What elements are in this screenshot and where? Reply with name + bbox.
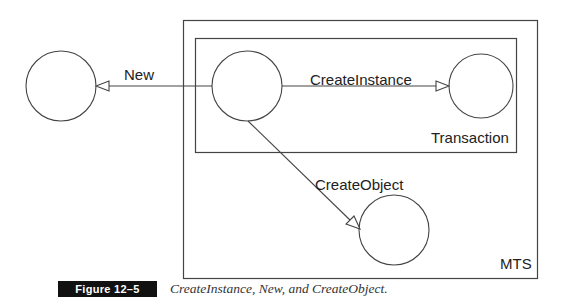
edge-label-createinstance: CreateInstance: [310, 71, 412, 88]
container-label-transaction: Transaction: [431, 129, 509, 146]
figure-caption: CreateInstance, New, and CreateObject.: [170, 280, 388, 297]
client-node: [26, 51, 96, 121]
figure-number: Figure 12–5: [58, 281, 157, 297]
instance-node: [449, 54, 513, 118]
edge-label-createobject: CreateObject: [315, 176, 404, 193]
root-node: [212, 51, 282, 121]
edge-label-new: New: [124, 66, 154, 83]
edge-createobject: [248, 121, 360, 229]
arrowhead-icon: [436, 81, 449, 91]
diagram-canvas: New CreateInstance CreateObject Transact…: [0, 0, 564, 304]
container-label-mts: MTS: [500, 255, 532, 272]
arrowhead-icon: [96, 81, 109, 91]
object-node: [359, 195, 429, 265]
